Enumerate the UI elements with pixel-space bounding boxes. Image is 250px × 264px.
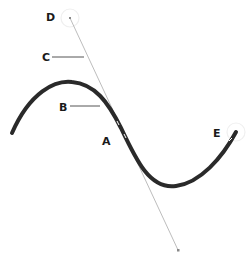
label-a: A <box>102 135 111 148</box>
label-c: C <box>42 51 50 64</box>
direction-point-icon <box>177 249 180 252</box>
label-b: B <box>59 101 67 114</box>
direction-point-icon <box>69 17 71 19</box>
label-e: E <box>213 127 221 140</box>
bezier-diagram: D C B A E <box>0 0 250 264</box>
label-d: D <box>46 11 55 24</box>
